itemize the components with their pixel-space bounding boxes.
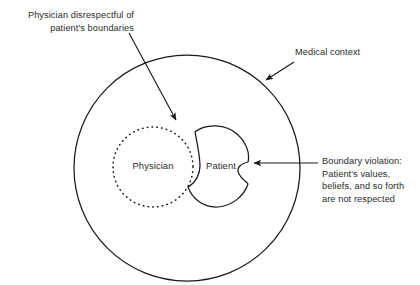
annotation-medical-context: Medical context [295, 46, 415, 59]
label-patient: Patient [192, 160, 250, 173]
diagram-graphics [0, 0, 420, 285]
label-physician: Physician [113, 160, 193, 173]
annotation-boundary-violation: Boundary violation: Patient's values, be… [322, 155, 420, 205]
arrow-medical-context [266, 62, 294, 80]
annotation-physician-disrespect: Physician disrespectful of patient's bou… [6, 9, 134, 34]
arrow-physician-disrespect [129, 33, 176, 120]
diagram-canvas: Physician disrespectful of patient's bou… [0, 0, 420, 285]
